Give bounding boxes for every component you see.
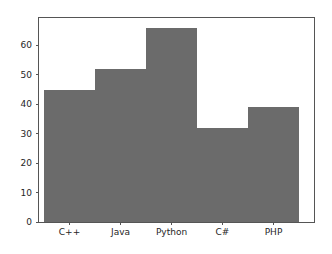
x-tick-label-c: C# (216, 228, 230, 237)
y-tick-label: 20 (21, 159, 32, 168)
y-tick-label: 0 (26, 218, 32, 227)
x-tick-label-python: Python (156, 228, 187, 237)
x-tick-mark (120, 222, 121, 225)
y-tick-mark (36, 74, 39, 75)
x-tick-label-php: PHP (265, 228, 283, 237)
y-tick-label: 50 (21, 70, 32, 79)
bar-java (95, 69, 146, 222)
y-tick-mark (36, 163, 39, 164)
bar-c (44, 90, 95, 223)
x-tick-label-c: C++ (59, 228, 80, 237)
y-tick-mark (36, 133, 39, 134)
y-tick-label: 30 (21, 129, 32, 138)
chart-figure: 0102030405060C++JavaPythonC#PHP (0, 0, 332, 254)
y-tick-label: 60 (21, 41, 32, 50)
y-tick-mark (36, 192, 39, 193)
y-tick-mark (36, 222, 39, 223)
bar-php (248, 107, 299, 222)
x-tick-label-java: Java (111, 228, 130, 237)
y-tick-label: 10 (21, 188, 32, 197)
x-tick-mark (69, 222, 70, 225)
bar-python (146, 28, 197, 222)
y-tick-mark (36, 104, 39, 105)
x-tick-mark (273, 222, 274, 225)
y-tick-label: 40 (21, 100, 32, 109)
x-tick-mark (222, 222, 223, 225)
x-tick-mark (171, 222, 172, 225)
y-tick-mark (36, 45, 39, 46)
plot-area: 0102030405060C++JavaPythonC#PHP (38, 17, 315, 223)
bar-c (197, 128, 248, 222)
